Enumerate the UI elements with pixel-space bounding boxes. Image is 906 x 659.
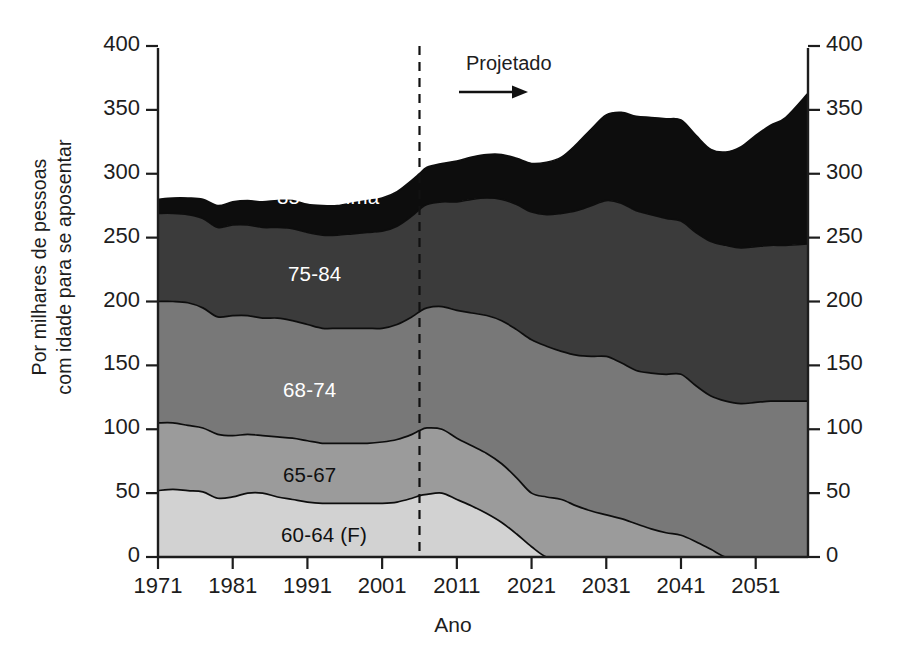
y-tick-left-250: 250 (78, 223, 140, 249)
y-tick-right-400: 400 (826, 31, 896, 57)
series-label-65-67: 65-67 (283, 463, 336, 487)
x-axis-label: Ano (353, 613, 553, 637)
y-tick-right-250: 250 (826, 223, 896, 249)
y-tick-right-350: 350 (826, 95, 896, 121)
y-tick-left-50: 50 (78, 478, 140, 504)
y-tick-left-150: 150 (78, 350, 140, 376)
y-tick-left-400: 400 (78, 31, 140, 57)
y-tick-right-50: 50 (826, 478, 896, 504)
y-tick-right-200: 200 (826, 287, 896, 313)
projection-label: Projetado (466, 52, 552, 75)
y-tick-left-0: 0 (78, 542, 140, 568)
x-tick-2021: 2021 (495, 573, 569, 599)
series-label-60-64: 60-64 (F) (281, 523, 367, 547)
x-tick-2051: 2051 (719, 573, 793, 599)
y-tick-right-100: 100 (826, 414, 896, 440)
x-tick-2041: 2041 (644, 573, 718, 599)
y-tick-left-350: 350 (78, 95, 140, 121)
series-label-75-84: 75-84 (288, 262, 341, 286)
y-tick-right-300: 300 (826, 159, 896, 185)
y-tick-left-300: 300 (78, 159, 140, 185)
x-tick-2011: 2011 (420, 573, 494, 599)
x-tick-2031: 2031 (569, 573, 643, 599)
figure-area-chart: Por milhares de pessoas com idade para s… (0, 0, 906, 659)
y-tick-left-100: 100 (78, 414, 140, 440)
y-tick-left-200: 200 (78, 287, 140, 313)
y-tick-right-150: 150 (826, 350, 896, 376)
y-tick-right-0: 0 (826, 542, 896, 568)
series-label-68-74: 68-74 (283, 378, 336, 402)
stacked-area-bands (158, 93, 808, 557)
y-axis-label-line-2: com idade para se aposentar (52, 139, 77, 394)
y-axis-label: Por milhares de pessoas com idade para s… (23, 67, 81, 467)
x-tick-2001: 2001 (345, 573, 419, 599)
y-axis-label-line-1: Por milhares de pessoas (27, 159, 52, 376)
series-label-85-plus: 85 e acima (277, 185, 379, 209)
projection-arrow-icon (459, 86, 528, 99)
x-tick-1981: 1981 (196, 573, 270, 599)
x-tick-1971: 1971 (121, 573, 195, 599)
x-tick-1991: 1991 (270, 573, 344, 599)
